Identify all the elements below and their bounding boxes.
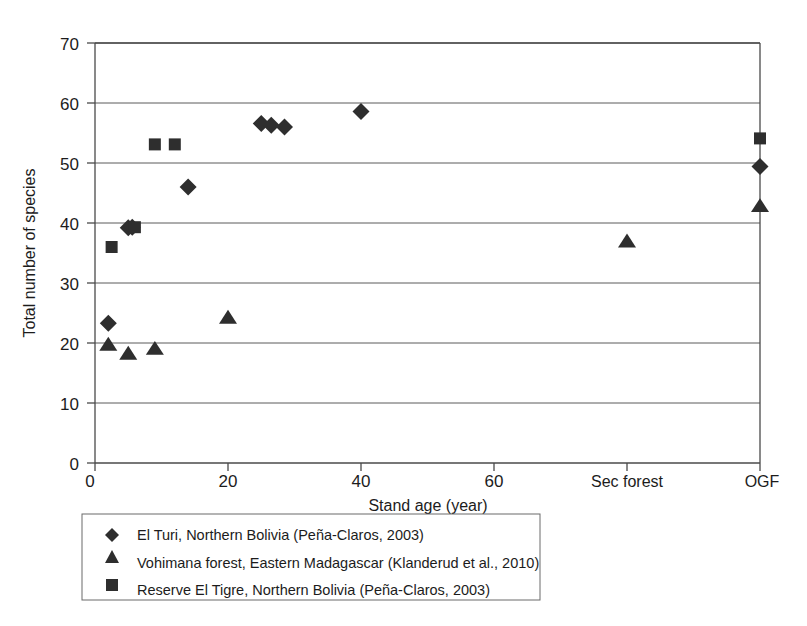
y-tick-label-30: 30 [60,275,79,294]
y-tick-label-60: 60 [60,95,79,114]
data-point-square-3 [169,138,181,150]
legend-label-2: Reserve El Tigre, Northern Bolivia (Peña… [137,582,490,598]
data-point-square-2 [149,138,161,150]
data-point-square-1 [129,221,141,233]
chart-figure: 70 60 50 40 30 20 10 0 Total number of s… [0,0,807,626]
y-tick-label-50: 50 [60,155,79,174]
legend-square-icon [106,579,118,591]
x-axis-title: Stand age (year) [368,497,487,514]
y-tick-label-20: 20 [60,335,79,354]
x-tick-label-20: 20 [219,472,238,491]
y-tick-label-70: 70 [60,35,79,54]
x-tick-label-sec-forest: Sec forest [591,473,664,490]
legend-label-0: El Turi, Northern Bolivia (Peña-Claros, … [137,527,424,543]
y-tick-label-10: 10 [60,395,79,414]
x-tick-label-60: 60 [485,472,504,491]
y-tick-label-40: 40 [60,215,79,234]
legend-entry-0: El Turi, Northern Bolivia (Peña-Claros, … [105,527,424,543]
legend-entry-2: Reserve El Tigre, Northern Bolivia (Peña… [106,579,490,598]
data-point-square-4 [754,132,766,144]
legend-label-1: Vohimana forest, Eastern Madagascar (Kla… [137,555,539,571]
x-tick-label-ogf: OGF [745,473,780,490]
data-point-square-0 [106,241,118,253]
y-axis-title: Total number of species [21,169,38,338]
x-tick-label-40: 40 [352,472,371,491]
x-tick-label-0: 0 [85,472,94,491]
y-tick-label-0: 0 [70,455,79,474]
scatter-plot-svg: 70 60 50 40 30 20 10 0 Total number of s… [0,0,807,626]
